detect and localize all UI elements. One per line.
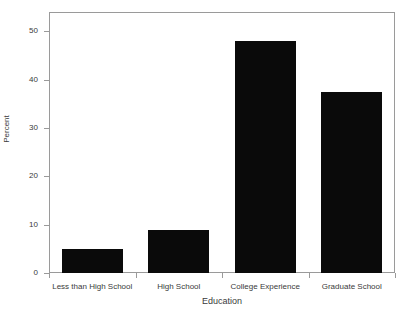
y-axis-tick-label: 50 — [29, 25, 38, 36]
y-axis-tick-label: 0 — [34, 267, 38, 278]
x-axis-tick-label: Graduate School — [292, 281, 412, 292]
x-axis-title: Education — [49, 295, 395, 307]
bar — [62, 249, 123, 273]
y-axis-tick-mark — [44, 128, 49, 129]
y-axis-tick-mark — [44, 80, 49, 81]
y-axis-tick-label: 20 — [29, 170, 38, 181]
y-axis-tick-mark — [44, 176, 49, 177]
x-axis-tick-mark — [309, 273, 310, 278]
bar-chart: 01020304050 Percent Less than High Schoo… — [0, 0, 413, 318]
x-axis-tick-mark — [136, 273, 137, 278]
bars-layer — [49, 12, 395, 273]
bar — [235, 41, 296, 273]
x-axis-tick-mark — [395, 273, 396, 278]
y-axis-tick-mark — [44, 225, 49, 226]
y-axis-tick-label: 40 — [29, 74, 38, 85]
y-axis-title: Percent — [2, 99, 12, 159]
x-axis-tick-mark — [49, 273, 50, 278]
y-axis-tick-label: 10 — [29, 219, 38, 230]
y-axis-tick-mark — [44, 31, 49, 32]
bar — [321, 92, 382, 273]
y-axis-tick-label: 30 — [29, 122, 38, 133]
x-axis-tick-mark — [222, 273, 223, 278]
bar — [148, 230, 209, 274]
